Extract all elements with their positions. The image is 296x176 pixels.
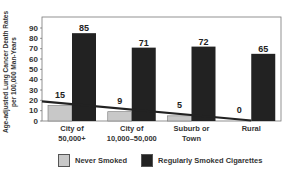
y-axis-label-line1: Age-adjusted Lung Cancer Death Rates — [2, 2, 10, 142]
x-category-label: 50,000+ — [58, 134, 86, 143]
legend-swatch-smoked — [141, 154, 153, 167]
y-tick-label: 60 — [29, 55, 38, 64]
bar-value-label: 5 — [177, 100, 182, 110]
x-category-label: Town — [182, 134, 201, 143]
bar-value-label: 9 — [117, 96, 122, 106]
bar-value-label: 85 — [79, 23, 89, 33]
bar-value-label: 0 — [237, 105, 242, 115]
y-axis-label-line2: per 100,000 Man-Years — [10, 2, 18, 142]
lung-cancer-bar-chart: 01020304050607080901585City of50,000+971… — [0, 0, 296, 176]
legend: Never Smoked Regularly Smoked Cigarettes — [58, 154, 276, 167]
x-category-label: City of — [60, 124, 84, 133]
bar-smoked — [192, 47, 216, 121]
y-tick-label: 80 — [29, 34, 38, 43]
y-axis-label: Age-adjusted Lung Cancer Death Rates per… — [2, 2, 22, 142]
y-tick-label: 50 — [29, 65, 38, 74]
x-category-label: City of — [120, 124, 144, 133]
x-category-label: 10,000–50,000 — [107, 134, 157, 143]
y-tick-label: 30 — [29, 86, 38, 95]
bar-value-label: 72 — [198, 37, 208, 47]
y-tick-label: 0 — [34, 117, 39, 126]
legend-swatch-never-smoked — [58, 154, 70, 167]
y-tick-label: 10 — [29, 106, 38, 115]
x-category-label: Rural — [242, 124, 261, 133]
bar-never-smoked — [108, 112, 132, 121]
bar-smoked — [72, 33, 96, 121]
bar-never-smoked — [48, 106, 72, 122]
bar-value-label: 15 — [55, 90, 65, 100]
legend-item-never-smoked: Never Smoked — [58, 154, 127, 167]
y-tick-label: 40 — [29, 75, 38, 84]
x-category-label: Suburb or — [174, 124, 210, 133]
bar-value-label: 71 — [139, 38, 149, 48]
y-tick-label: 70 — [29, 44, 38, 53]
legend-label: Regularly Smoked Cigarettes — [158, 156, 262, 165]
bar-never-smoked — [168, 116, 192, 121]
y-tick-label: 20 — [29, 96, 38, 105]
bar-value-label: 65 — [258, 44, 268, 54]
bar-smoked — [251, 54, 275, 121]
y-tick-label: 90 — [29, 24, 38, 33]
legend-label: Never Smoked — [75, 156, 127, 165]
plot-area: 01020304050607080901585City of50,000+971… — [0, 0, 296, 176]
legend-item-smoked: Regularly Smoked Cigarettes — [141, 154, 262, 167]
